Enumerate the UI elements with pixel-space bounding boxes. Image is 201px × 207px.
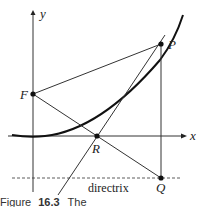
caption-prefix: Figure (0, 196, 31, 207)
point-f-label: F (19, 87, 29, 102)
point-q-label: Q (156, 180, 166, 195)
point-r-label: R (91, 141, 100, 156)
x-axis-label: x (189, 128, 196, 143)
parabola-diagram: y x directrix F P R Q Figure 16.3 The (0, 0, 201, 207)
figure-caption: Figure 16.3 The (0, 192, 87, 207)
point-r (94, 133, 99, 138)
y-axis-label: y (38, 6, 46, 21)
x-axis-arrow-icon (181, 134, 187, 139)
y-axis-arrow-icon (31, 10, 36, 15)
caption-text: The (68, 196, 87, 207)
caption-number: 16.3 (38, 196, 59, 207)
tangent-line (58, 35, 165, 195)
parabola-curve (12, 15, 183, 137)
point-f (30, 91, 35, 96)
point-p-label: P (167, 37, 176, 52)
directrix-label: directrix (88, 181, 129, 195)
point-p (158, 41, 163, 46)
